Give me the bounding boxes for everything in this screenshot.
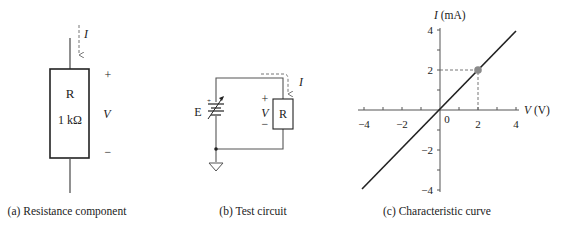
circuit-wire-bottom	[216, 129, 283, 149]
source-label: E	[194, 105, 201, 119]
y-tick-label: −2	[421, 144, 433, 156]
circuit-wire-top	[216, 78, 283, 102]
y-tick-label: 4	[428, 24, 434, 36]
y-tick-label: −4	[421, 184, 433, 196]
caption-b: (b) Test circuit	[219, 205, 287, 218]
highlight-point	[474, 66, 482, 74]
resistor-value: 1 kΩ	[58, 113, 82, 127]
panel-b-test-circuit: + E R + V − I (b) Test circuit	[194, 74, 304, 218]
x-tick-label: −4	[358, 118, 370, 130]
x-tick-label: 0	[444, 113, 450, 125]
plus-sign: +	[105, 68, 112, 82]
current-label: I	[298, 75, 304, 89]
y-tick-label: 2	[428, 64, 434, 76]
minus-sign: −	[105, 145, 112, 159]
figure: I R 1 kΩ + V − (a) Resistance component …	[0, 0, 574, 226]
panel-c-characteristic-curve: −4 −2 0 2 4 4 2 −2 −4 I (mA) V (V) (c) C…	[358, 9, 550, 218]
ground-icon	[209, 163, 223, 171]
x-tick-label: −2	[396, 118, 408, 130]
current-label: I	[83, 27, 89, 41]
source-plus: +	[207, 97, 211, 105]
junction-dot	[214, 147, 218, 151]
caption-c: (c) Characteristic curve	[383, 205, 491, 218]
plus-sign: +	[262, 92, 269, 106]
minus-sign: −	[262, 117, 269, 131]
x-axis-label: V (V)	[524, 104, 550, 117]
current-arrow-icon	[261, 74, 288, 94]
resistor-label: R	[66, 86, 75, 101]
panel-a-resistance-component: I R 1 kΩ + V − (a) Resistance component	[8, 25, 128, 218]
x-tick-label: 4	[513, 118, 519, 130]
resistor-label: R	[279, 107, 287, 121]
voltage-label: V	[103, 107, 112, 121]
y-axis-label: I (mA)	[433, 9, 466, 22]
caption-a: (a) Resistance component	[8, 205, 128, 218]
x-tick-label: 2	[475, 118, 481, 130]
